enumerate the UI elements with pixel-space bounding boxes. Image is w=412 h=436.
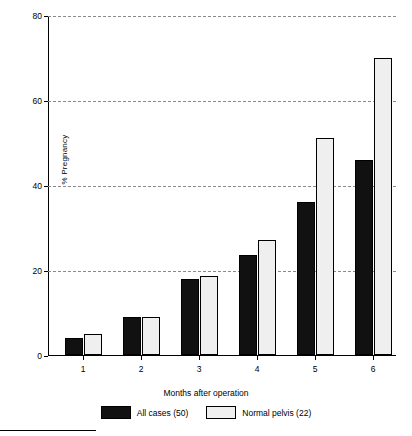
- chart-legend: All cases (50)Normal pelvis (22): [0, 406, 412, 419]
- gridline: [48, 101, 396, 102]
- x-tick-label: 2: [139, 364, 144, 374]
- y-tick-mark: [44, 356, 48, 357]
- x-tick-mark: [373, 356, 374, 360]
- y-tick-mark: [44, 16, 48, 17]
- bar: [84, 334, 102, 355]
- bar: [65, 338, 83, 355]
- y-tick-label: 20: [16, 266, 42, 276]
- bar: [355, 160, 373, 356]
- legend-label: Normal pelvis (22): [242, 408, 311, 418]
- bar: [316, 138, 334, 355]
- gridline: [48, 271, 396, 272]
- x-tick-mark: [257, 356, 258, 360]
- bar: [374, 58, 392, 356]
- bar: [123, 317, 141, 355]
- x-tick-mark: [315, 356, 316, 360]
- y-tick-label: 60: [16, 96, 42, 106]
- x-tick-label: 3: [197, 364, 202, 374]
- bar: [181, 279, 199, 356]
- legend-entry: All cases (50): [101, 406, 189, 419]
- x-tick-mark: [141, 356, 142, 360]
- x-axis-title: Months after operation: [0, 388, 412, 398]
- bar: [239, 255, 257, 355]
- x-tick-label: 1: [81, 364, 86, 374]
- footer-rule: [0, 430, 96, 431]
- x-tick-mark: [199, 356, 200, 360]
- y-tick-mark: [44, 271, 48, 272]
- x-tick-label: 6: [371, 364, 376, 374]
- y-tick-mark: [44, 101, 48, 102]
- x-tick-mark: [83, 356, 84, 360]
- y-tick-label: 40: [16, 181, 42, 191]
- x-tick-label: 5: [313, 364, 318, 374]
- x-tick-label: 4: [255, 364, 260, 374]
- bar: [142, 317, 160, 355]
- legend-label: All cases (50): [137, 408, 189, 418]
- y-tick-label: 80: [16, 11, 42, 21]
- y-tick-mark: [44, 186, 48, 187]
- legend-entry: Normal pelvis (22): [206, 406, 311, 419]
- legend-swatch: [206, 406, 236, 419]
- bar: [258, 240, 276, 355]
- plot-area: 020406080 123456: [48, 16, 396, 356]
- gridline: [48, 16, 396, 17]
- x-axis-line: [48, 355, 396, 356]
- gridline: [48, 186, 396, 187]
- y-tick-label: 0: [16, 351, 42, 361]
- bar: [297, 202, 315, 355]
- legend-swatch: [101, 406, 131, 419]
- pregnancy-rate-bar-chart: % Pregnancy 020406080 123456 Months afte…: [0, 0, 412, 436]
- bar: [200, 276, 218, 355]
